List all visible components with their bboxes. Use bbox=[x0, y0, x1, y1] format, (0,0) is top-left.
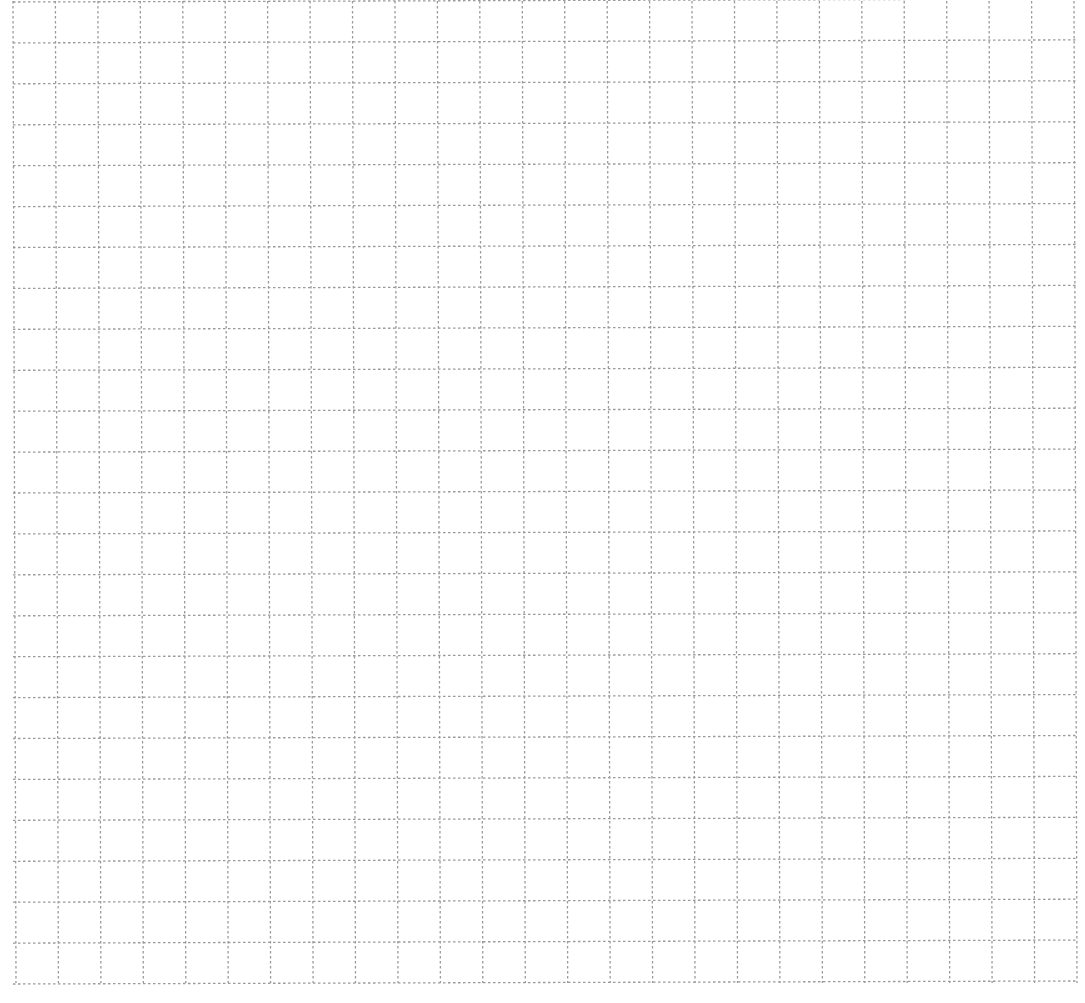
grid-horizontal-line bbox=[13, 858, 1076, 861]
grid-horizontal-line bbox=[13, 981, 1076, 984]
grid-horizontal-line bbox=[13, 81, 1076, 84]
grid-horizontal-line bbox=[13, 940, 1076, 943]
grid-horizontal-line bbox=[13, 531, 1076, 534]
grid-horizontal-line bbox=[13, 776, 1076, 779]
grid-horizontal-line bbox=[13, 40, 1076, 43]
grid-horizontal-line bbox=[13, 817, 1076, 820]
grid-horizontal-line bbox=[13, 122, 1076, 125]
grid-vertical-line bbox=[735, 1, 738, 983]
grid-vertical-line bbox=[650, 1, 653, 983]
grid-horizontal-line bbox=[13, 449, 1076, 452]
grid-vertical-line bbox=[819, 1, 822, 983]
grid-vertical-line bbox=[777, 1, 780, 983]
grid-horizontal-line bbox=[13, 899, 1076, 902]
grid-horizontal-line bbox=[13, 245, 1076, 248]
grid-vertical-line bbox=[862, 1, 865, 983]
grid-vertical-line bbox=[692, 1, 695, 983]
grid-paper bbox=[0, 0, 1085, 1003]
grid-vertical-line bbox=[140, 1, 143, 983]
grid-horizontal-line bbox=[13, 326, 1076, 329]
grid-vertical-line bbox=[13, 1, 16, 983]
grid-vertical-line bbox=[225, 1, 228, 983]
grid-horizontal-line bbox=[13, 572, 1076, 575]
grid-horizontal-line bbox=[13, 695, 1076, 698]
grid-vertical-line bbox=[947, 1, 950, 983]
grid-horizontal-line bbox=[13, 367, 1076, 370]
grid-horizontal-line bbox=[13, 490, 1076, 493]
grid-horizontal-line bbox=[13, 654, 1076, 657]
grid-horizontal-line bbox=[13, 736, 1076, 739]
grid-horizontal-line bbox=[13, 285, 1076, 288]
horizontal-grid-lines bbox=[13, 0, 1076, 984]
grid-vertical-line bbox=[55, 1, 58, 983]
grid-vertical-line bbox=[1032, 1, 1035, 983]
grid-vertical-line bbox=[989, 1, 992, 983]
grid-horizontal-line bbox=[13, 0, 1076, 2]
grid-vertical-line bbox=[904, 1, 907, 983]
grid-horizontal-line bbox=[13, 613, 1076, 616]
grid-horizontal-line bbox=[13, 204, 1076, 207]
grid-horizontal-line bbox=[13, 408, 1076, 411]
grid-horizontal-line bbox=[13, 163, 1076, 166]
grid-vertical-line bbox=[1074, 1, 1077, 983]
grid-vertical-line bbox=[98, 1, 101, 983]
grid-vertical-line bbox=[310, 1, 313, 983]
grid-vertical-line bbox=[607, 1, 610, 983]
